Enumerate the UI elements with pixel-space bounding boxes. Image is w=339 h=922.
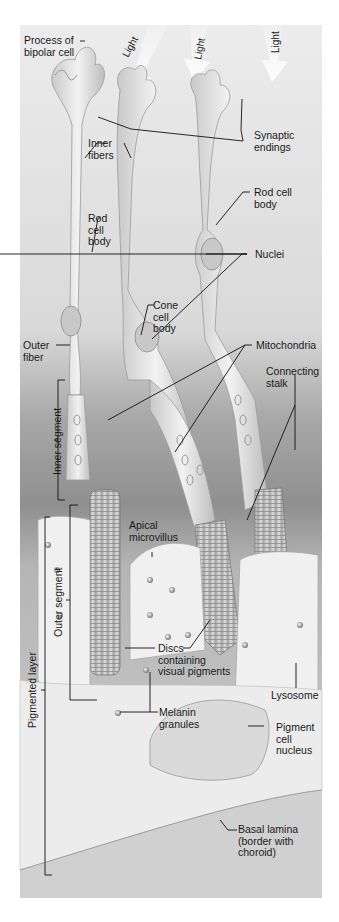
label-inner-segment: Inner segment — [52, 408, 63, 475]
label-connecting-stalk: Connecting stalk — [266, 366, 319, 389]
label-process-of-bipolar-cell: Process of bipolar cell — [24, 35, 74, 58]
label-nuclei: Nuclei — [255, 249, 284, 261]
label-rod-cell-body-left: Rod cell body — [88, 213, 111, 248]
label-cone-cell-body: Cone cell body — [153, 300, 178, 335]
rod-outer-segment-left — [90, 490, 120, 675]
label-outer-fiber: Outer fiber — [23, 340, 49, 363]
label-pigment-cell-nucleus: Pigment cell nucleus — [276, 722, 315, 757]
label-discs-containing-visual-pigments: Discs containing visual pigments — [158, 643, 230, 678]
label-pigmented-layer: Pigmented layer — [27, 652, 38, 728]
label-basal-lamina: Basal lamina (border with choroid) — [238, 824, 298, 859]
rod-nucleus-left — [61, 306, 81, 336]
label-melanin-granules: Melanin granules — [159, 707, 199, 730]
light-label-3: Light — [270, 31, 281, 53]
label-outer-segment: Outer segment — [53, 568, 64, 637]
label-apical-microvillus: Apical microvillus — [129, 520, 178, 543]
label-synaptic-endings: Synaptic endings — [254, 130, 294, 153]
label-rod-cell-body-right: Rod cell body — [254, 187, 292, 210]
label-mitochondria: Mitochondria — [256, 340, 316, 352]
label-inner-fibers: Inner fibers — [88, 138, 114, 161]
label-lysosome: Lysosome — [271, 690, 318, 702]
